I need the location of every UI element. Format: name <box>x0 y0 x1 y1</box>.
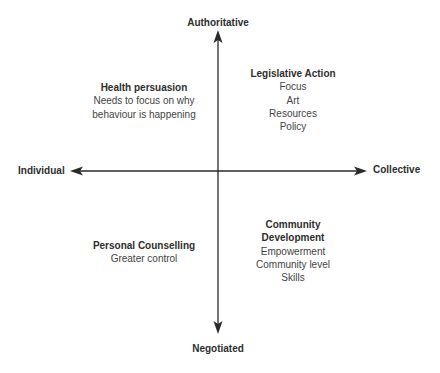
quadrant-line: behaviour is happening <box>84 108 204 121</box>
quadrant-health-persuasion: Health persuasion Needs to focus on why … <box>84 81 204 121</box>
quadrant-line: Skills <box>233 271 353 284</box>
quadrant-title: Community <box>233 218 353 231</box>
axis-label-negotiated: Negotiated <box>168 342 268 355</box>
quadrant-line: Art <box>233 94 353 107</box>
axis-label-individual: Individual <box>18 164 70 177</box>
quadrant-legislative-action: Legislative Action Focus Art Resources P… <box>233 67 353 133</box>
quadrant-title: Legislative Action <box>233 67 353 80</box>
quadrant-line: Resources <box>233 107 353 120</box>
quadrant-line: Greater control <box>84 252 204 265</box>
axes-graphic <box>0 0 440 373</box>
quadrant-community-development: Community Development Empowerment Commun… <box>233 218 353 284</box>
quadrant-title: Health persuasion <box>84 81 204 94</box>
quadrant-line: Policy <box>233 120 353 133</box>
quadrant-line: Needs to focus on why <box>84 94 204 107</box>
quadrant-line: Community level <box>233 258 353 271</box>
quadrant-line: Focus <box>233 80 353 93</box>
axis-label-collective: Collective <box>373 163 433 176</box>
quadrant-personal-counselling: Personal Counselling Greater control <box>84 239 204 266</box>
axis-label-authoritative: Authoritative <box>168 16 268 29</box>
quadrant-title: Personal Counselling <box>84 239 204 252</box>
quadrant-line: Empowerment <box>233 245 353 258</box>
quadrant-title: Development <box>233 231 353 244</box>
